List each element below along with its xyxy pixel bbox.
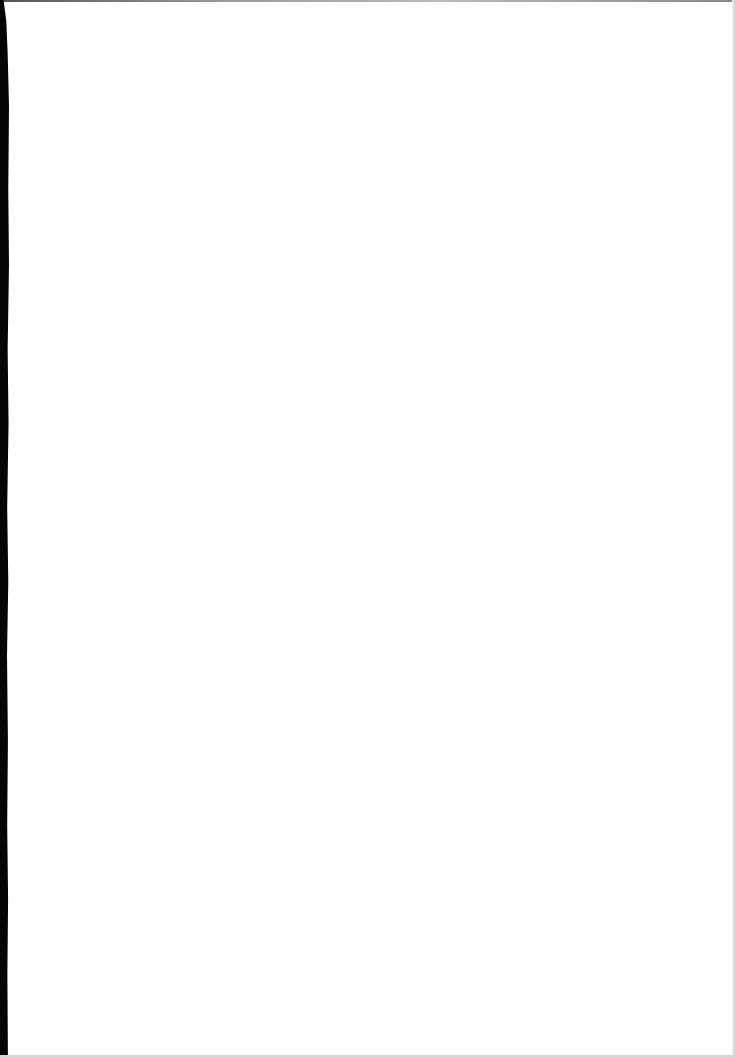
- top-page-edge: [0, 0, 735, 2]
- page-content: [40, 40, 695, 1018]
- binding-shadow: [0, 0, 9, 1058]
- scanned-page: [0, 0, 735, 1058]
